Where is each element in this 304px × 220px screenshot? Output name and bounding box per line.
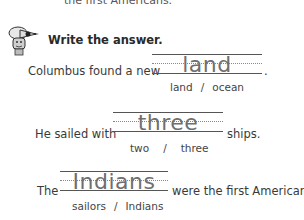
instruction-text: Write the answer.	[48, 33, 163, 47]
choice-sailors: sailors	[72, 200, 106, 212]
question-2-prefix: He sailed with	[35, 127, 116, 141]
answer-3: Indians	[60, 171, 168, 193]
choice-two: two	[130, 142, 149, 154]
answer-blank-3[interactable]: Indians	[60, 171, 168, 191]
choice-separator: /	[114, 200, 118, 212]
answer-blank-2[interactable]: three	[113, 112, 223, 132]
previous-text-fragment: the first Americans.	[64, 0, 172, 7]
question-1-prefix: Columbus found a new	[28, 64, 160, 78]
choice-three: three	[181, 142, 209, 154]
question-3-prefix: The	[37, 184, 58, 198]
question-3-suffix: were the first Americans.	[172, 184, 304, 198]
pencil-mascot-icon	[6, 24, 40, 56]
choice-land: land	[170, 81, 193, 93]
instruction-header: Write the answer.	[6, 24, 163, 56]
choice-separator: /	[163, 142, 167, 154]
choice-indians: Indians	[126, 200, 164, 212]
choices-3: sailors/Indians	[72, 200, 163, 212]
answer-1: land	[152, 54, 262, 76]
answer-blank-1[interactable]: land	[152, 54, 262, 74]
question-2-suffix: ships.	[227, 127, 260, 141]
choices-2: two/three	[130, 142, 208, 154]
answer-2: three	[113, 112, 223, 134]
choice-ocean: ocean	[212, 81, 244, 93]
question-1-suffix: .	[264, 64, 268, 78]
choice-separator: /	[201, 81, 205, 93]
choices-1: land/ocean	[170, 81, 244, 93]
